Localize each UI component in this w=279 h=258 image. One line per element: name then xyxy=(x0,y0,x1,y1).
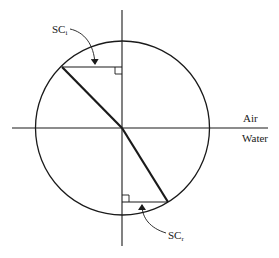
scr-label-sub: r xyxy=(181,235,183,243)
scr-label-main: SC xyxy=(168,229,181,241)
air-label: Air xyxy=(243,113,258,124)
incident-ray xyxy=(62,67,122,128)
sci-pointer-arrow xyxy=(70,29,95,64)
sci-label: SCi xyxy=(52,24,67,37)
scr-label: SCr xyxy=(168,230,184,243)
refraction-diagram xyxy=(0,0,279,258)
refracted-ray xyxy=(122,128,168,202)
water-label: Water xyxy=(242,133,268,144)
sci-label-sub: i xyxy=(65,29,67,37)
refracted-right-angle-marker xyxy=(122,195,129,202)
incident-right-angle-marker xyxy=(115,67,122,74)
sci-label-main: SC xyxy=(52,23,65,35)
